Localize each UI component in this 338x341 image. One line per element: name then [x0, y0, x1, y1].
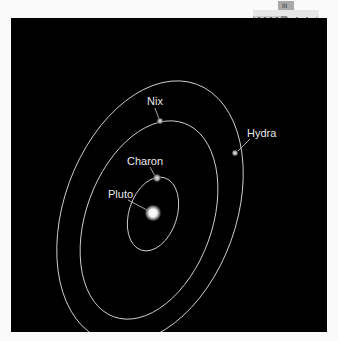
widget-tab[interactable]: III	[278, 1, 294, 10]
zigzag-scale-strip[interactable]	[253, 10, 319, 18]
pluto-label: Pluto	[108, 188, 133, 200]
pluto-system-diagram: Nix Hydra Charon Pluto	[11, 18, 327, 332]
charon-label: Charon	[127, 155, 163, 167]
charon-body	[152, 173, 162, 183]
bars-icon: III	[282, 2, 287, 9]
nix-label: Nix	[147, 95, 163, 107]
hydra-body	[231, 149, 239, 157]
nix-body	[156, 117, 164, 125]
hydra-label: Hydra	[247, 127, 276, 139]
orbit-diagram	[11, 18, 327, 332]
pluto-body	[144, 204, 162, 222]
